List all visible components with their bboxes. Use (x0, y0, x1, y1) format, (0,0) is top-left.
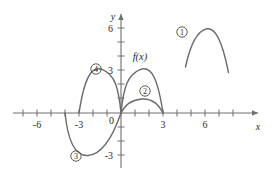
x-tick-label-neg3: -3 (75, 119, 83, 130)
marker-4-label: 4 (94, 65, 98, 74)
function-label-fx: f(x) (133, 51, 148, 63)
x-axis-arrow (252, 110, 258, 115)
curve-fx (121, 69, 163, 113)
curve-1 (186, 29, 229, 73)
y-axis: 6 3 -3 y 0 (105, 11, 125, 168)
marker-2-label: 2 (143, 87, 147, 96)
curve-2 (121, 99, 163, 113)
marker-circled-2: 2 (140, 86, 150, 96)
y-tick-label-pos6: 6 (108, 23, 113, 34)
x-axis-label: x (255, 121, 261, 132)
marker-1-label: 1 (180, 28, 184, 37)
curve-4 (79, 69, 121, 113)
marker-circled-1: 1 (177, 27, 187, 37)
y-axis-label: y (110, 11, 116, 22)
x-tick-label-neg6: -6 (33, 119, 41, 130)
y-tick-label-neg3: -3 (105, 150, 113, 161)
x-tick-label-pos6: 6 (203, 119, 208, 130)
marker-3-label: 3 (74, 152, 78, 161)
graph-figure: -6 -3 3 6 x 6 3 -3 y 0 (0, 0, 274, 172)
x-tick-label-pos3: 3 (161, 119, 166, 130)
y-axis-arrow (118, 14, 123, 20)
x-axis: -6 -3 3 6 x (13, 110, 261, 133)
marker-circled-3: 3 (71, 151, 81, 161)
origin-label: 0 (109, 115, 114, 126)
